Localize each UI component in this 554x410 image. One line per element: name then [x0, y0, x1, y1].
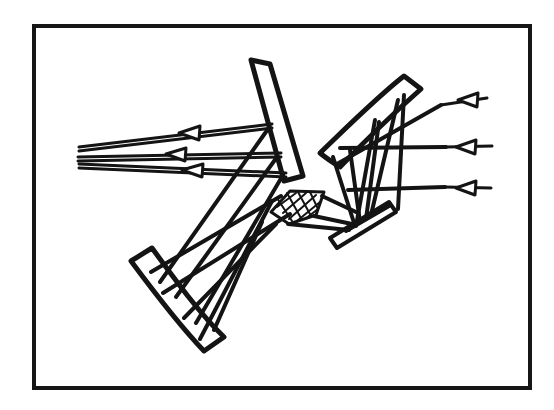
optical-ray-diagram: Optical ray-trace schematic Technical li…: [0, 0, 554, 410]
arrowhead-icon: [182, 164, 203, 177]
figure-root: Optical ray-trace schematic Technical li…: [0, 0, 554, 410]
arrowhead-icon: [458, 93, 478, 107]
arrowhead-icon: [456, 181, 476, 195]
output-arrowheads: [456, 93, 478, 195]
arrowhead-icon: [456, 140, 476, 154]
fold-flat-mirror: [251, 60, 303, 181]
